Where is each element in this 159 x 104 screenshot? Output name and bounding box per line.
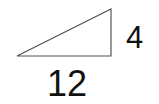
right-triangle-shape: [17, 9, 111, 56]
horizontal-leg-length-label: 12: [47, 66, 87, 102]
vertical-leg-length-label: 4: [126, 22, 143, 53]
